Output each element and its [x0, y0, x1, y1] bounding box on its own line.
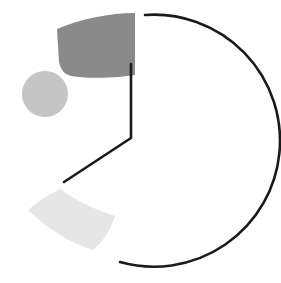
chart-canvas: [0, 0, 281, 283]
pie-chart-figure: [0, 0, 281, 283]
pie-slice-segment-3[interactable]: [22, 71, 68, 117]
chart-background: [0, 0, 281, 283]
